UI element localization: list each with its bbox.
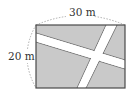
height-label: 20 m — [8, 50, 35, 62]
width-label: 30 m — [69, 6, 96, 18]
field-diagram: 30 m 20 m — [0, 0, 135, 101]
